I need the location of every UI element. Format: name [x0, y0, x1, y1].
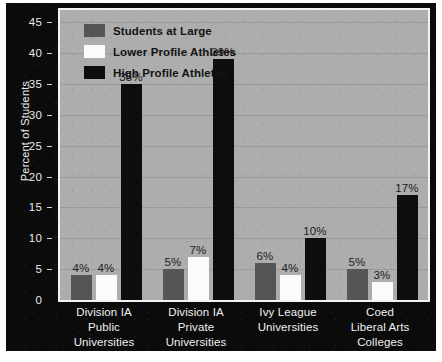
gridline	[60, 177, 428, 178]
y-tick-label: 35	[29, 78, 42, 90]
x-category-line: Coed	[334, 305, 426, 320]
bar[interactable]	[163, 269, 184, 300]
gridline	[60, 238, 428, 239]
chart-legend: Students at LargeLower Profile AthletesH…	[84, 21, 236, 84]
y-tick-mark	[47, 269, 52, 270]
y-tick-mark	[47, 115, 52, 116]
gridline	[60, 207, 428, 208]
y-tick-mark	[47, 84, 52, 85]
legend-swatch-icon	[84, 24, 105, 37]
x-category-line: Division IA	[150, 305, 242, 320]
y-tick-mark	[47, 207, 52, 208]
bar-value-label: 5%	[165, 256, 182, 268]
y-tick-label: 15	[29, 201, 42, 213]
bar[interactable]	[121, 84, 142, 300]
x-category-label: Ivy LeagueUniversities	[242, 305, 334, 335]
legend-item[interactable]: High Profile Athletes	[84, 63, 236, 82]
bar-value-label: 10%	[303, 225, 326, 237]
y-tick-label: 20	[29, 171, 42, 183]
legend-item[interactable]: Students at Large	[84, 21, 236, 40]
bar-value-label: 4%	[282, 262, 299, 274]
x-category-line: Colleges	[334, 335, 426, 350]
bar[interactable]	[397, 195, 418, 300]
legend-label: Lower Profile Athletes	[113, 46, 236, 58]
x-category-line: Ivy League	[242, 305, 334, 320]
plot-area: 4%4%35%5%7%39%6%4%10%5%3%17% Students at…	[58, 8, 430, 302]
bar[interactable]	[280, 275, 301, 300]
x-category-label: CoedLiberal ArtsColleges	[334, 305, 426, 350]
x-category-label: Division IAPublicUniversities	[58, 305, 150, 350]
x-category-line: Division IA	[58, 305, 150, 320]
bar[interactable]	[305, 238, 326, 300]
bar-value-label: 4%	[98, 262, 115, 274]
x-category-line: Public	[58, 320, 150, 335]
x-category-line: Universities	[150, 335, 242, 350]
legend-label: High Profile Athletes	[113, 67, 228, 79]
bar[interactable]	[255, 263, 276, 300]
y-tick-label: 0	[35, 294, 42, 306]
bar-value-label: 17%	[395, 182, 418, 194]
bar[interactable]	[188, 257, 209, 300]
y-axis-ticks: 051015202530354045	[6, 8, 52, 302]
x-category-label: Division IAPrivateUniversities	[150, 305, 242, 350]
bar-value-label: 6%	[257, 250, 274, 262]
legend-swatch-icon	[84, 45, 105, 58]
bar[interactable]	[71, 275, 92, 300]
legend-item[interactable]: Lower Profile Athletes	[84, 42, 236, 61]
y-tick-label: 25	[29, 140, 42, 152]
bar-value-label: 7%	[190, 244, 207, 256]
gridline	[60, 146, 428, 147]
bar-value-label: 5%	[349, 256, 366, 268]
y-tick-mark	[47, 53, 52, 54]
y-tick-label: 40	[29, 47, 42, 59]
y-tick-label: 30	[29, 109, 42, 121]
legend-swatch-icon	[84, 66, 105, 79]
chart-figure: Percent of Students 051015202530354045 4…	[0, 0, 442, 362]
gridline	[60, 115, 428, 116]
bar[interactable]	[347, 269, 368, 300]
y-tick-label: 45	[29, 16, 42, 28]
bar[interactable]	[372, 282, 393, 301]
bar-value-label: 4%	[73, 262, 90, 274]
y-tick-mark	[47, 146, 52, 147]
bar-value-label: 3%	[374, 269, 391, 281]
y-tick-label: 5	[35, 263, 42, 275]
y-tick-mark	[47, 22, 52, 23]
x-category-line: Liberal Arts	[334, 320, 426, 335]
bar[interactable]	[213, 59, 234, 300]
x-category-line: Private	[150, 320, 242, 335]
y-tick-mark	[47, 238, 52, 239]
bar[interactable]	[96, 275, 117, 300]
legend-label: Students at Large	[113, 25, 212, 37]
gridline	[60, 84, 428, 85]
chart-canvas: Percent of Students 051015202530354045 4…	[6, 3, 436, 351]
x-category-line: Universities	[58, 335, 150, 350]
x-axis-labels: Division IAPublicUniversitiesDivision IA…	[58, 305, 430, 351]
y-tick-label: 10	[29, 232, 42, 244]
x-category-line: Universities	[242, 320, 334, 335]
y-tick-mark	[47, 177, 52, 178]
